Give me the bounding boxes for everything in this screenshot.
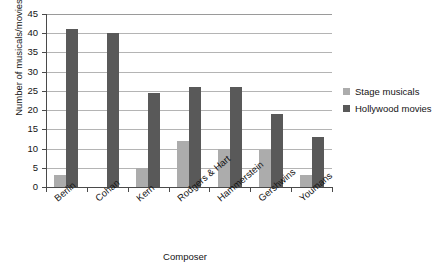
bar xyxy=(189,87,201,187)
x-axis-title: Composer xyxy=(0,251,370,262)
x-tick-mark xyxy=(332,187,333,192)
y-tick-label: 45 xyxy=(12,9,38,18)
x-tick-mark xyxy=(87,187,88,192)
y-tick-label: 35 xyxy=(12,47,38,56)
y-tick-label: 5 xyxy=(12,163,38,172)
chart-legend: Stage musicals Hollywood movies xyxy=(343,83,432,117)
bar-group xyxy=(46,14,87,187)
bar xyxy=(107,33,119,187)
y-tick-label: 15 xyxy=(12,124,38,133)
y-tick-label: 25 xyxy=(12,86,38,95)
x-tick-mark xyxy=(46,187,47,192)
legend-swatch-icon xyxy=(343,88,350,95)
x-tick-mark xyxy=(250,187,251,192)
y-tick-label: 20 xyxy=(12,105,38,114)
legend-item-label: Stage musicals xyxy=(355,86,419,97)
bar xyxy=(148,93,160,187)
bar xyxy=(230,87,242,187)
bar-groups xyxy=(46,14,332,187)
legend-item-stage-musicals: Stage musicals xyxy=(343,83,432,100)
x-tick-mark xyxy=(291,187,292,192)
bar xyxy=(177,141,189,187)
x-tick-mark xyxy=(209,187,210,192)
bar-group xyxy=(291,14,332,187)
bar-group xyxy=(87,14,128,187)
y-tick-label: 40 xyxy=(12,28,38,37)
legend-item-label: Hollywood movies xyxy=(355,103,432,114)
legend-item-hollywood-movies: Hollywood movies xyxy=(343,100,432,117)
x-tick-mark xyxy=(169,187,170,192)
y-tick-label: 30 xyxy=(12,67,38,76)
x-tick-mark xyxy=(128,187,129,192)
bar xyxy=(66,29,78,187)
bar-group xyxy=(169,14,210,187)
bar-group xyxy=(128,14,169,187)
y-tick-label: 0 xyxy=(12,182,38,191)
y-tick-label: 10 xyxy=(12,144,38,153)
bar-chart: Number of musicals/movies 05101520253035… xyxy=(0,0,445,275)
legend-swatch-icon xyxy=(343,105,350,112)
